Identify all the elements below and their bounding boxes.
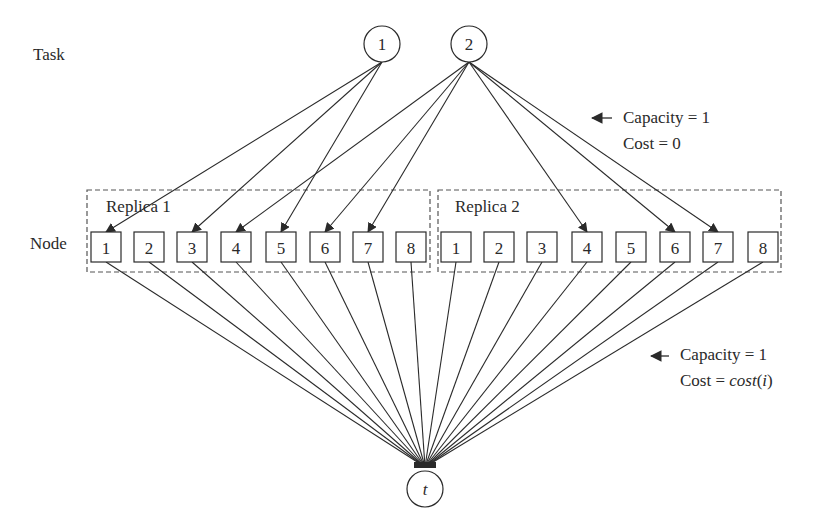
node-box-r1-8: 8 — [396, 232, 426, 262]
node-box-r2-7: 7 — [703, 232, 733, 262]
replica-1-label: Replica 1 — [106, 197, 171, 217]
svg-text:6: 6 — [321, 239, 330, 258]
node-box-r2-4: 4 — [572, 232, 602, 262]
node-box-r1-2: 2 — [134, 232, 164, 262]
svg-text:2: 2 — [495, 239, 504, 258]
svg-text:2: 2 — [145, 239, 154, 258]
node-box-r1-7: 7 — [353, 232, 383, 262]
sink-edge — [425, 262, 456, 467]
bottom-edge-cost: Cost = cost(i) — [680, 371, 773, 391]
node-to-sink-edges — [106, 262, 763, 468]
task-edge — [368, 62, 469, 232]
cost-function: cost — [729, 371, 756, 390]
sink-edge — [425, 262, 542, 467]
sink-node: t — [407, 471, 443, 507]
node-box-r1-5: 5 — [266, 232, 296, 262]
svg-text:8: 8 — [407, 239, 416, 258]
sink-edge — [325, 262, 425, 467]
node-box-r2-6: 6 — [660, 232, 690, 262]
task-nodes: 12 — [364, 26, 487, 62]
replica-2-label: Replica 2 — [455, 197, 520, 217]
sink-arrowheads — [414, 462, 436, 468]
sink-edge — [425, 262, 587, 467]
svg-text:1: 1 — [378, 35, 387, 54]
svg-text:8: 8 — [759, 239, 768, 258]
sink-edge — [425, 262, 718, 467]
cost-prefix: Cost = — [680, 371, 729, 390]
flow-network-diagram: 1234567812345678 12 t — [0, 0, 815, 531]
svg-text:3: 3 — [188, 239, 197, 258]
sink-edge — [106, 262, 425, 467]
top-edge-capacity: Capacity = 1 — [623, 108, 710, 128]
svg-text:7: 7 — [714, 239, 723, 258]
svg-text:2: 2 — [465, 35, 474, 54]
node-box-r1-1: 1 — [91, 232, 121, 262]
task-edge — [192, 62, 382, 232]
task-edge — [236, 62, 469, 232]
svg-text:5: 5 — [277, 239, 286, 258]
task-node-2: 2 — [451, 26, 487, 62]
svg-text:5: 5 — [627, 239, 636, 258]
sink-edge — [411, 262, 425, 467]
node-box-r1-4: 4 — [221, 232, 251, 262]
task-node-1: 1 — [364, 26, 400, 62]
task-row-label: Task — [33, 45, 65, 65]
task-edge — [325, 62, 469, 232]
sink-edge — [281, 262, 425, 467]
sink-edge — [192, 262, 425, 467]
node-box-r2-2: 2 — [484, 232, 514, 262]
paren-close: ) — [767, 371, 773, 390]
bottom-edge-capacity: Capacity = 1 — [680, 345, 767, 365]
node-row-label: Node — [30, 234, 67, 254]
node-box-r2-1: 1 — [441, 232, 471, 262]
node-box-r2-8: 8 — [748, 232, 778, 262]
svg-text:4: 4 — [232, 239, 241, 258]
task-edge — [281, 62, 382, 232]
top-edge-cost: Cost = 0 — [623, 134, 681, 154]
sink-edge — [149, 262, 425, 467]
svg-text:1: 1 — [452, 239, 461, 258]
svg-text:1: 1 — [102, 239, 111, 258]
node-box-r1-6: 6 — [310, 232, 340, 262]
node-box-r2-3: 3 — [527, 232, 557, 262]
node-boxes: 1234567812345678 — [91, 232, 778, 262]
svg-text:3: 3 — [538, 239, 547, 258]
svg-text:7: 7 — [364, 239, 373, 258]
svg-text:4: 4 — [583, 239, 592, 258]
sink-edge — [425, 262, 631, 467]
svg-text:6: 6 — [671, 239, 680, 258]
node-box-r2-5: 5 — [616, 232, 646, 262]
node-box-r1-3: 3 — [177, 232, 207, 262]
